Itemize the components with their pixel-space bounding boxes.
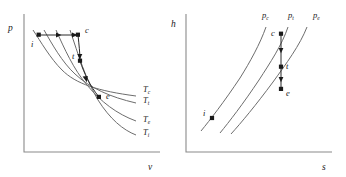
process-point-marker-e: [97, 95, 101, 99]
process-point-label-i: i: [31, 39, 34, 49]
process-point-label-c: c: [271, 28, 275, 38]
right-process-markers: [210, 32, 283, 121]
left-process-markers: [37, 33, 101, 99]
right-process-path: [279, 34, 284, 89]
process-point-marker-t: [279, 65, 283, 69]
isobar-label-pc-sub: c: [266, 15, 269, 21]
process-point-label-e: e: [286, 88, 290, 98]
right-x-axis-label: s: [322, 162, 326, 172]
process-point-label-e: e: [106, 91, 110, 101]
process-arrow-c-to-t-mid: [279, 48, 284, 53]
isobar-label-pc: pc: [261, 10, 269, 21]
process-point-marker-c: [76, 33, 80, 37]
right-process-labels: i c t e: [203, 28, 290, 118]
process-point-marker-t: [78, 59, 82, 63]
process-point-label-c: c: [85, 25, 89, 35]
right-isobar-curves: [201, 27, 307, 134]
isotherm-label-Te: Te: [143, 114, 151, 125]
left-panel-pv-diagram: p v Tc Tt Te Ti: [7, 14, 160, 172]
isotherm-label-Ti-sub: i: [148, 132, 150, 138]
left-y-axis-label: p: [7, 23, 13, 33]
process-point-marker-c: [279, 32, 283, 36]
isobar-curve-pt: [220, 27, 288, 133]
isotherm-label-Ti: Ti: [143, 127, 150, 138]
process-point-marker-e: [279, 87, 283, 91]
isotherm-label-Tt: Tt: [143, 95, 150, 106]
isobar-label-pt: pt: [287, 10, 294, 21]
left-isotherm-labels: Tc Tt Te Ti: [143, 84, 151, 138]
right-isobar-labels: pc pt pe: [261, 10, 320, 21]
process-arrow-t-to-e-mid: [279, 77, 284, 82]
isotherm-curve-Tc: [33, 30, 136, 96]
right-y-axis-label: h: [171, 19, 176, 29]
isotherm-label-Tt-sub: t: [148, 100, 150, 106]
right-axis-lines: [186, 14, 332, 152]
process-point-label-t: t: [72, 51, 75, 61]
isotherm-label-Tc: Tc: [143, 84, 151, 95]
isobar-label-pt-sub: t: [292, 15, 294, 21]
process-point-marker-i: [37, 33, 41, 37]
isobar-label-pe: pe: [312, 10, 320, 21]
left-x-axis-label: v: [148, 162, 153, 172]
thermodynamic-figure: p v Tc Tt Te Ti: [0, 0, 346, 177]
isobar-label-pe-sub: e: [317, 15, 320, 21]
figure-canvas: p v Tc Tt Te Ti: [0, 0, 346, 177]
isotherm-label-Te-sub: e: [148, 119, 151, 125]
process-point-label-i: i: [203, 108, 206, 118]
left-process-path: [39, 33, 99, 97]
process-point-marker-i: [210, 116, 214, 120]
right-panel-hs-diagram: h s pc pt pe: [171, 10, 332, 172]
isotherm-curve-Tt: [44, 30, 136, 103]
isobar-curve-pe: [231, 27, 307, 134]
left-isotherm-curves: [33, 30, 136, 135]
isotherm-label-Tc-sub: c: [148, 89, 151, 95]
process-point-label-t: t: [286, 61, 289, 71]
